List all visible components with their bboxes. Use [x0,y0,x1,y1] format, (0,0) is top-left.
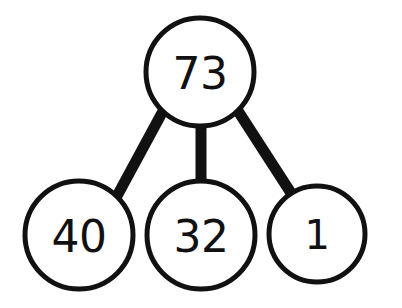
edge-root-to-right-part [238,111,291,193]
part-left-value-label: 40 [52,211,107,262]
number-bond-canvas: 73 40 32 1 [0,0,402,308]
node-whole[interactable]: 73 [146,18,254,126]
node-part-left[interactable]: 40 [25,181,133,289]
node-part-right[interactable]: 1 [269,186,365,282]
edge-root-to-left-part [117,111,163,196]
part-right-value-label: 1 [305,212,330,258]
whole-value-label: 73 [173,48,228,99]
part-middle-value-label: 32 [174,211,229,262]
node-part-middle[interactable]: 32 [147,181,255,289]
number-bond-diagram: 73 40 32 1 [0,0,402,308]
